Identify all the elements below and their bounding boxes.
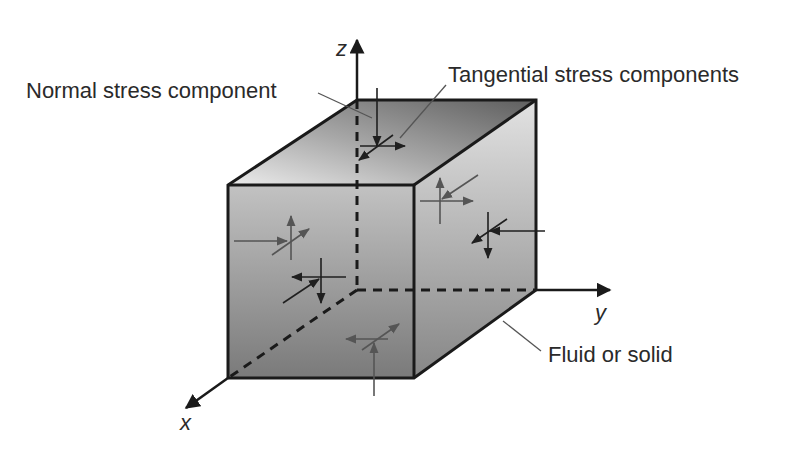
y-axis-label: y: [593, 300, 608, 325]
stress-cube-diagram: z y x Normal st: [0, 0, 804, 454]
material-leader: [503, 321, 541, 351]
x-axis: [186, 378, 228, 408]
normal-stress-label: Normal stress component: [26, 78, 277, 103]
z-axis-label: z: [335, 36, 347, 61]
tangential-stress-label: Tangential stress components: [448, 62, 739, 87]
material-label: Fluid or solid: [548, 342, 673, 367]
x-axis-label: x: [179, 410, 192, 435]
